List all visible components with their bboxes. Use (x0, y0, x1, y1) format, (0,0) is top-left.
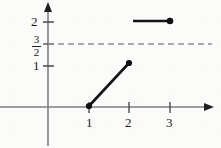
y-axis-arrow-icon (44, 2, 52, 12)
y-axis-label-1: 1 (33, 59, 40, 72)
fraction-numerator: 3 (30, 34, 43, 45)
x-axis-arrow-icon (204, 103, 214, 111)
x-axis-label-1: 1 (86, 116, 93, 129)
x-axis-label-2: 2 (125, 116, 132, 129)
y-axis-label-2: 2 (31, 15, 38, 28)
rising-segment (89, 63, 129, 106)
y-axis-label-three-halves: 3 2 (30, 34, 43, 58)
endpoint-dot-top-of-rise (126, 60, 132, 66)
fraction-denominator: 2 (30, 47, 43, 58)
graph-figure: 2 3 2 1 1 2 3 (0, 0, 221, 148)
x-axis-label-3: 3 (166, 116, 173, 129)
endpoint-dot-constant-right (167, 18, 174, 25)
endpoint-dot-origin-of-rise (86, 103, 92, 109)
